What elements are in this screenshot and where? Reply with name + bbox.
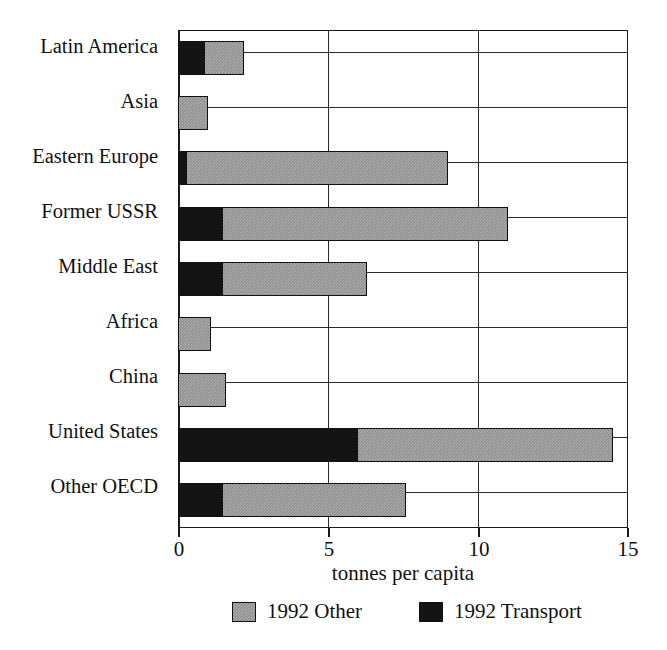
category-axis-labels: Latin America Asia Eastern Europe Former… bbox=[0, 30, 168, 528]
legend-swatch-transport-icon bbox=[419, 602, 443, 622]
legend-label: 1992 Transport bbox=[454, 601, 582, 622]
category-label: Middle East bbox=[0, 256, 158, 277]
plot-area bbox=[178, 30, 628, 528]
bar-segment-other bbox=[186, 151, 448, 185]
x-axis-tick bbox=[178, 528, 180, 537]
bar-segment-other bbox=[222, 262, 367, 296]
category-label: Asia bbox=[0, 91, 158, 112]
bar-segment-other bbox=[204, 41, 244, 75]
legend-swatch-other-icon bbox=[232, 602, 256, 622]
bar-row bbox=[178, 96, 628, 130]
x-axis-tick-label: 5 bbox=[324, 539, 335, 560]
bar-segment-transport bbox=[178, 428, 358, 462]
bar-row bbox=[178, 428, 628, 462]
category-label: Former USSR bbox=[0, 201, 158, 222]
bar-segment-other bbox=[178, 373, 226, 407]
x-axis-tick bbox=[627, 528, 629, 537]
bar-row bbox=[178, 483, 628, 517]
legend-item-other: 1992 Other bbox=[232, 601, 362, 622]
legend-item-transport: 1992 Transport bbox=[419, 601, 582, 622]
x-axis-tick-label: 10 bbox=[469, 539, 490, 560]
bar-row bbox=[178, 151, 628, 185]
x-axis-tick-label: 15 bbox=[618, 539, 639, 560]
category-label: China bbox=[0, 366, 158, 387]
bar-segment-transport bbox=[178, 483, 223, 517]
chart-legend: 1992 Other 1992 Transport bbox=[178, 601, 638, 631]
bar-row bbox=[178, 41, 628, 75]
stacked-bar-chart: Latin America Asia Eastern Europe Former… bbox=[0, 0, 667, 650]
bar-segment-other bbox=[357, 428, 613, 462]
category-label: Latin America bbox=[0, 36, 158, 57]
bar-row bbox=[178, 373, 628, 407]
bar-segment-other bbox=[178, 317, 211, 351]
category-label: Other OECD bbox=[0, 476, 158, 497]
legend-label: 1992 Other bbox=[267, 601, 362, 622]
bar-row bbox=[178, 262, 628, 296]
x-axis-tick bbox=[328, 528, 330, 537]
bar-segment-transport bbox=[178, 41, 205, 75]
category-label: Africa bbox=[0, 311, 158, 332]
x-axis-tick bbox=[478, 528, 480, 537]
bar-segment-transport bbox=[178, 262, 223, 296]
bar-segment-other bbox=[178, 96, 208, 130]
x-axis-tick-label: 0 bbox=[174, 539, 185, 560]
x-axis-title: tonnes per capita bbox=[178, 563, 628, 584]
bar-row bbox=[178, 207, 628, 241]
bar-segment-transport bbox=[178, 207, 223, 241]
bar-row bbox=[178, 317, 628, 351]
bar-segment-other bbox=[222, 207, 508, 241]
category-label: Eastern Europe bbox=[0, 146, 158, 167]
bar-segment-other bbox=[222, 483, 406, 517]
category-label: United States bbox=[0, 421, 158, 442]
